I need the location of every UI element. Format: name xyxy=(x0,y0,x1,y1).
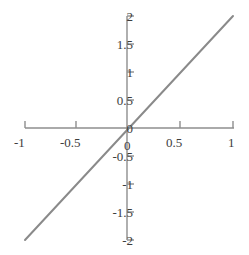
y-tick-label-0: 2 xyxy=(0,10,133,23)
y-tick-label-5: -0.5 xyxy=(0,150,133,163)
x-tick-label-3: 0.5 xyxy=(166,136,182,149)
y-tick-label-1: 1.5 xyxy=(0,38,133,51)
y-tick-label-6: -1 xyxy=(0,178,133,191)
y-tick-label-7: -1.5 xyxy=(0,206,133,219)
y-tick-label-3: 0.5 xyxy=(0,94,133,107)
x-tick-label-0: -1 xyxy=(14,136,25,149)
y-tick-label-8: -2 xyxy=(0,234,133,247)
chart-figure: · · · · · · -1-0.500.5 xyxy=(0,0,249,255)
x-tick-label-1: -0.5 xyxy=(60,136,81,149)
y-tick-label-4: 0 xyxy=(0,122,133,135)
x-tick-label-4: 1 xyxy=(228,136,235,149)
y-tick-label-2: 1 xyxy=(0,66,133,79)
